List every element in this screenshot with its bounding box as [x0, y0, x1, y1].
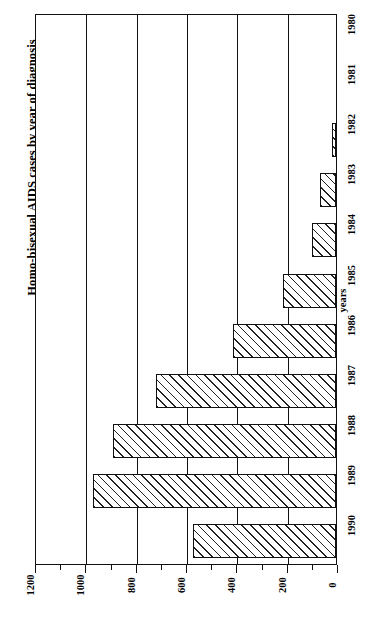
bar-1989	[93, 474, 336, 508]
minor-tick-1100	[60, 565, 61, 570]
minor-tick-500	[211, 565, 212, 570]
bar-1990	[193, 524, 336, 558]
bar-row	[34, 524, 336, 558]
bar-1983	[320, 173, 336, 207]
value-tick-label-400: 400	[226, 562, 237, 608]
bar-row	[34, 23, 336, 57]
value-tick-label-800: 800	[126, 562, 137, 608]
value-tick-label-200: 200	[277, 562, 288, 608]
year-label-1980: 1980	[346, 0, 357, 50]
bar-row	[34, 173, 336, 207]
value-tick-label-600: 600	[176, 562, 187, 608]
year-label-1984: 1984	[346, 200, 357, 250]
minor-tick-700	[161, 565, 162, 570]
bar-row	[34, 73, 336, 107]
bar-row	[34, 424, 336, 458]
plot-area	[35, 14, 337, 565]
bar-row	[34, 123, 336, 157]
minor-tick-300	[262, 565, 263, 570]
year-label-1987: 1987	[346, 350, 357, 400]
value-tick-label-1000: 1000	[75, 562, 86, 608]
bar-1984	[312, 223, 336, 257]
bar-row	[34, 324, 336, 358]
bar-row	[34, 274, 336, 308]
year-label-1981: 1981	[346, 50, 357, 100]
bar-1982	[332, 123, 336, 157]
year-label-1985: 1985	[346, 250, 357, 300]
year-label-1989: 1989	[346, 450, 357, 500]
bar-1985	[283, 274, 336, 308]
minor-tick-900	[111, 565, 112, 570]
value-tick-label-1200: 1200	[25, 562, 36, 608]
bar-1988	[113, 424, 336, 458]
year-label-1982: 1982	[346, 100, 357, 150]
bar-row	[34, 223, 336, 257]
bar-row	[34, 374, 336, 408]
year-label-1990: 1990	[346, 501, 357, 551]
minor-tick-100	[312, 565, 313, 570]
bar-1987	[156, 374, 336, 408]
bar-row	[34, 474, 336, 508]
year-label-1983: 1983	[346, 150, 357, 200]
bar-1986	[233, 324, 336, 358]
value-tick-label-0: 0	[327, 562, 338, 608]
year-label-1988: 1988	[346, 400, 357, 450]
year-label-1986: 1986	[346, 300, 357, 350]
chart-figure: Homo-bisexual AIDS cases by year of diag…	[0, 0, 376, 618]
